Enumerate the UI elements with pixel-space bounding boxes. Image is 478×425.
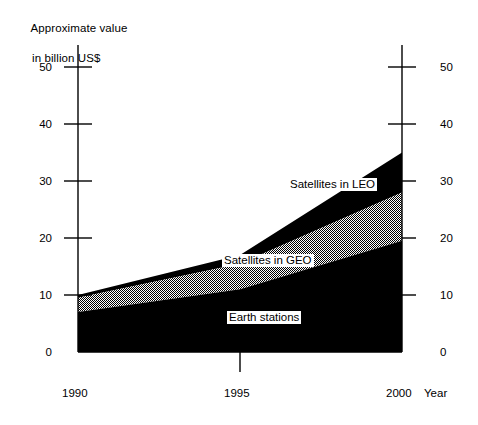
- series-label-leo: Satellites in LEO: [288, 178, 377, 191]
- plot-area: [0, 0, 478, 425]
- chart-figure: Approximate value in billion US$ 50 40 3…: [0, 0, 478, 425]
- x-tick-label-2000: 2000: [386, 387, 412, 399]
- series-label-geo: Satellites in GEO: [222, 254, 314, 267]
- x-axis-title: Year: [424, 387, 447, 399]
- x-tick-label-1995: 1995: [224, 387, 250, 399]
- x-tick-label-1990: 1990: [62, 387, 88, 399]
- series-label-earth-stations: Earth stations: [227, 311, 301, 324]
